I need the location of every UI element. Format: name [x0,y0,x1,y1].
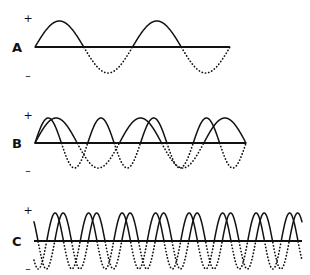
waveform-c [0,0,310,275]
sine-wave-figure: A+– B+– C+– [0,0,310,275]
wave-row-c: C+– [0,0,310,275]
